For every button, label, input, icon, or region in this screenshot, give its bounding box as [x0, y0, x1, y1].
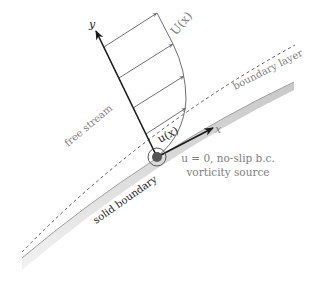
local-velocity-label: u(x) [155, 124, 180, 146]
boundary-layer-diagram: y x U(x) u(x) free stream boundary layer… [0, 0, 317, 287]
x-axis-label: x [215, 123, 222, 136]
vorticity-source-label: vorticity source [185, 166, 269, 178]
y-axis [96, 31, 157, 157]
profile-label: U(x) [168, 9, 196, 38]
y-axis-label: y [88, 18, 96, 31]
free-stream-label: free stream [62, 102, 115, 149]
noslip-label: u = 0, no-slip b.c. [181, 152, 275, 164]
